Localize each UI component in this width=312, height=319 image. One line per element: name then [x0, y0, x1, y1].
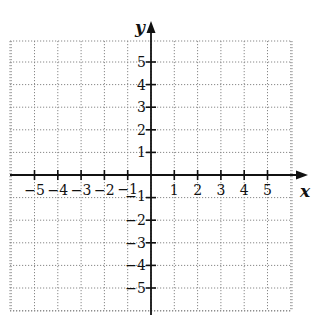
coordinate-plane: xy−5−4−3−2−11234554321−1−2−3−4−5 [0, 0, 312, 319]
y-tick-label: −4 [125, 257, 146, 273]
x-tick-label: 3 [216, 182, 225, 198]
x-tick-label: 2 [193, 182, 202, 198]
x-tick-label: 4 [240, 182, 249, 198]
y-tick-label: 5 [137, 54, 146, 70]
y-tick-label: −3 [125, 235, 146, 251]
x-tick-label: 1 [170, 182, 179, 198]
y-tick-label: −2 [125, 212, 146, 228]
x-tick-label: −4 [47, 182, 68, 198]
x-tick-label: −5 [24, 182, 45, 198]
y-tick-label: 3 [137, 99, 146, 115]
y-axis-arrow-icon [147, 21, 156, 33]
x-tick-label: 5 [263, 182, 272, 198]
y-tick-label: −1 [125, 188, 146, 204]
y-tick-label: 4 [137, 77, 146, 93]
x-axis-label: x [299, 181, 311, 201]
y-tick-label: 2 [137, 122, 146, 138]
y-axis-label: y [134, 17, 146, 37]
coordinate-grid: xy−5−4−3−2−11234554321−1−2−3−4−5 [0, 0, 312, 319]
y-tick-label: −5 [125, 280, 146, 296]
x-axis-arrow-icon [296, 171, 308, 180]
x-tick-label: −3 [71, 182, 92, 198]
x-tick-label: −2 [94, 182, 115, 198]
y-tick-label: 1 [137, 144, 146, 160]
